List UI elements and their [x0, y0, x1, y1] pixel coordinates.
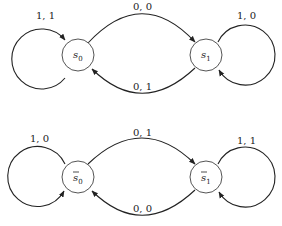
transition-label: 0, 0 — [133, 203, 152, 214]
state-s0bar: s0 — [62, 161, 94, 193]
transition-s0bar-s1bar — [88, 138, 195, 164]
transition-s0-s1 — [88, 14, 195, 43]
transition-label: 1, 0 — [30, 133, 49, 144]
state-diagram: 1, 1 0, 0 0, 1 1, 0 s0 s1 1, 0 0, 1 0, 0 — [0, 0, 282, 226]
transition-label: 1, 0 — [237, 10, 256, 21]
transition-s0bar-s0bar — [8, 147, 65, 207]
machine-top: 1, 1 0, 0 0, 1 1, 0 s0 s1 — [12, 1, 275, 93]
transition-s1bar-s1bar — [218, 147, 275, 207]
state-s0: s0 — [62, 39, 94, 71]
transition-s0-s0 — [12, 29, 65, 89]
transition-label: 1, 1 — [36, 10, 55, 21]
machine-bottom: 1, 0 0, 1 0, 0 1, 1 s0 s1 — [8, 127, 275, 215]
state-s1bar: s1 — [190, 161, 222, 193]
transition-label: 1, 1 — [237, 135, 256, 146]
transition-label: 0, 1 — [133, 127, 152, 138]
transition-s1-s1 — [218, 25, 275, 85]
transition-label: 0, 1 — [133, 81, 152, 92]
state-s1: s1 — [190, 39, 222, 71]
transition-label: 0, 0 — [133, 1, 152, 12]
